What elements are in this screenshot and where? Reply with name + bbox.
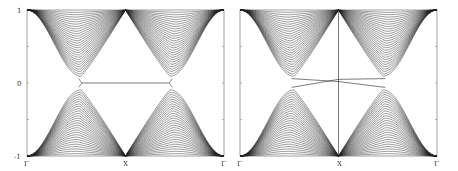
left-x-tick-x: X (123, 160, 128, 168)
right-x-tick-gamma-start: Γ (237, 160, 242, 168)
y-tick-1: 1 (17, 7, 21, 15)
right-panel (240, 10, 437, 156)
right-x-tick-gamma-end: Γ (434, 160, 439, 168)
y-tick-0: 0 (17, 80, 21, 88)
right-x-tick-x: X (337, 160, 342, 168)
left-x-tick-gamma-start: Γ (24, 160, 29, 168)
left-x-tick-gamma-end: Γ (221, 160, 226, 168)
band-structure-figure: 1 0 -1 Γ X Γ Γ X Γ (0, 0, 458, 171)
left-panel (27, 10, 224, 156)
y-tick-minus1: -1 (14, 153, 21, 161)
